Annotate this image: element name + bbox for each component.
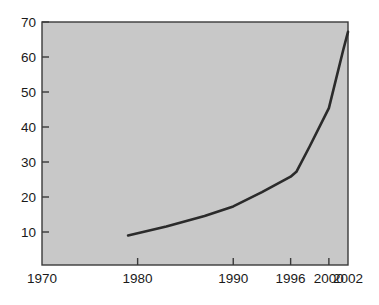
y-axis-tick-label: 70 [21,15,36,30]
line-chart: 10203040506070197019801990199620002002 [0,0,379,305]
x-axis-tick-label: 1996 [276,271,306,286]
x-axis-tick-label: 1990 [218,271,248,286]
plot-area-background [42,22,348,265]
x-axis-tick-label: 1980 [123,271,153,286]
y-axis-tick-label: 30 [21,155,36,170]
x-axis-tick-label: 1970 [27,271,57,286]
chart-canvas: 10203040506070197019801990199620002002 [0,0,379,305]
x-axis-tick-label: 2002 [333,271,363,286]
y-axis-tick-label: 20 [21,190,36,205]
y-axis-tick-label: 50 [21,85,36,100]
y-axis-tick-label: 10 [21,225,36,240]
y-axis-tick-label: 60 [21,50,36,65]
y-axis-tick-label: 40 [21,120,36,135]
